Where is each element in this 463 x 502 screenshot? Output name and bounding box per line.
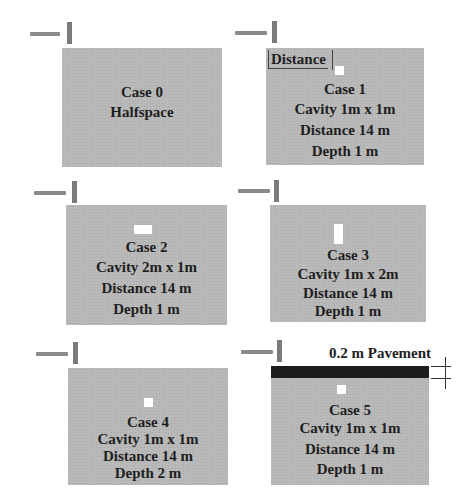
depth: Depth 1 m bbox=[66, 299, 227, 319]
cavity bbox=[337, 385, 346, 394]
depth: Depth 1 m bbox=[266, 141, 424, 161]
pavement-label: 0.2 m Pavement bbox=[329, 345, 431, 362]
cavity bbox=[144, 398, 153, 407]
cavity-size: Cavity 2m x 1m bbox=[66, 257, 227, 277]
halfspace-box: Case 2 Cavity 2m x 1m Distance 14 m Dept… bbox=[66, 205, 227, 325]
source-arm-icon bbox=[34, 191, 66, 195]
pavement-dimension-line bbox=[445, 357, 446, 389]
cavity-size: Cavity 1m x 1m bbox=[266, 99, 424, 119]
cavity-size: Cavity 1m x 2m bbox=[270, 264, 426, 284]
source-arm-icon bbox=[238, 189, 270, 193]
halfspace-box: Case 5 Cavity 1m x 1m Distance 14 m Dept… bbox=[271, 366, 429, 485]
distance: Distance 14 m bbox=[270, 283, 426, 303]
distance: Distance 14 m bbox=[271, 439, 429, 459]
case-title: Case 3 bbox=[270, 245, 426, 265]
halfspace-box: Distance Case 1 Cavity 1m x 1m Distance … bbox=[266, 48, 424, 165]
source-arm-icon bbox=[30, 32, 60, 36]
source-icon bbox=[73, 342, 78, 364]
halfspace-box: Case 0 Halfspace bbox=[62, 48, 222, 167]
depth: Depth 2 m bbox=[68, 463, 228, 483]
halfspace-box: Case 3 Cavity 1m x 2m Distance 14 m Dept… bbox=[270, 205, 426, 322]
cavity bbox=[334, 224, 343, 244]
source-icon bbox=[277, 340, 282, 362]
cavity bbox=[335, 66, 344, 75]
source-arm-icon bbox=[241, 350, 273, 354]
distance-annotation: Distance bbox=[268, 50, 328, 69]
pavement-layer bbox=[271, 366, 429, 378]
source-icon bbox=[274, 180, 279, 202]
distance-tick bbox=[332, 50, 333, 70]
case-desc: Halfspace bbox=[62, 102, 222, 122]
distance: Distance 14 m bbox=[66, 278, 227, 298]
distance: Distance 14 m bbox=[266, 120, 424, 140]
depth: Depth 1 m bbox=[271, 459, 429, 479]
cavity-size: Cavity 1m x 1m bbox=[271, 418, 429, 438]
halfspace-box: Case 4 Cavity 1m x 1m Distance 14 m Dept… bbox=[68, 368, 228, 485]
source-arm-icon bbox=[36, 352, 68, 356]
case-title: Case 2 bbox=[66, 237, 227, 257]
case-title: Case 0 bbox=[62, 82, 222, 102]
source-icon bbox=[67, 22, 72, 44]
depth: Depth 1 m bbox=[270, 301, 426, 321]
cavity bbox=[134, 225, 152, 234]
pavement-dimension-tick-top bbox=[431, 366, 451, 367]
case-title: Case 5 bbox=[271, 400, 429, 420]
source-icon bbox=[272, 21, 277, 43]
case-title: Case 1 bbox=[266, 79, 424, 99]
pavement-dimension-tick-bottom bbox=[431, 378, 451, 379]
source-arm-icon bbox=[235, 31, 267, 35]
source-icon bbox=[72, 181, 77, 203]
